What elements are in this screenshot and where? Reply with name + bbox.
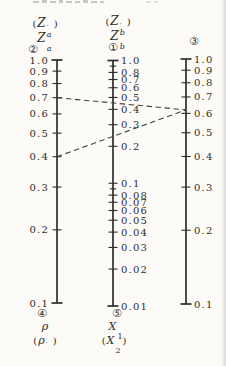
tick-label-scale-1: 0.3 bbox=[121, 119, 141, 130]
tick-label-scale-2: 0.4 bbox=[29, 151, 49, 162]
tick-label-scale-2: 0.3 bbox=[29, 182, 49, 193]
tick-label-scale-1: 0.01 bbox=[121, 301, 148, 312]
close-paren: ) bbox=[52, 335, 58, 346]
tick-label-scale-2: 0.9 bbox=[29, 66, 49, 77]
tick-label-scale-2: 0.6 bbox=[29, 108, 49, 119]
tick-label-scale-2: 0.5 bbox=[29, 128, 49, 139]
tick-label-scale-2: 0.2 bbox=[29, 224, 49, 235]
prime-stack: ′ bbox=[46, 342, 52, 355]
tick-label-scale-3: 0.5 bbox=[194, 127, 214, 138]
close-paren: ) bbox=[121, 335, 127, 346]
rho-symbol: ρ bbox=[25, 320, 65, 333]
circled-number-5: ⑤ bbox=[112, 308, 122, 320]
tick-label-scale-3: 0.7 bbox=[194, 91, 214, 102]
tick-label-scale-2: 1.0 bbox=[29, 55, 49, 66]
tick-label-scale-3: 0.9 bbox=[194, 65, 214, 76]
circled-number-4: ④ bbox=[37, 308, 47, 320]
scan-edge-shadow bbox=[221, 0, 226, 366]
nomogram-figure: (Z′a) Za ② (Z′b) Zb ① ③ 1.00.90.80.70.60… bbox=[0, 0, 226, 366]
tick-label-scale-1: 0.05 bbox=[121, 215, 148, 226]
tick-label-scale-1: 0.03 bbox=[121, 242, 148, 253]
tick-label-scale-1: 0.4 bbox=[121, 104, 141, 115]
tick-label-scale-3: 0.8 bbox=[194, 77, 214, 88]
x2-symbol: (X2) bbox=[89, 334, 139, 354]
tick-label-scale-3: 1.0 bbox=[194, 54, 214, 65]
tick-label-scale-2: 0.7 bbox=[29, 92, 49, 103]
tick-label-scale-1: 0.5 bbox=[121, 92, 141, 103]
tick-label-scale-3: 0.4 bbox=[194, 151, 214, 162]
tick-label-scale-3: 0.1 bbox=[194, 299, 214, 310]
rho-prime-symbol: (ρ′) bbox=[20, 334, 70, 355]
tick-label-scale-1: 0.02 bbox=[121, 264, 148, 275]
tick-label-scale-2: 0.8 bbox=[29, 78, 49, 89]
tick-label-scale-1: 0.1 bbox=[121, 178, 141, 189]
tick-label-scale-1: 1.0 bbox=[121, 55, 141, 66]
tick-label-scale-1: 0.2 bbox=[121, 141, 141, 152]
tick-label-scale-3: 0.2 bbox=[194, 225, 214, 236]
tick-label-scale-3: 0.3 bbox=[194, 182, 214, 193]
tick-label-scale-3: 0.6 bbox=[194, 108, 214, 119]
tick-label-scale-1: 0.04 bbox=[121, 227, 148, 238]
